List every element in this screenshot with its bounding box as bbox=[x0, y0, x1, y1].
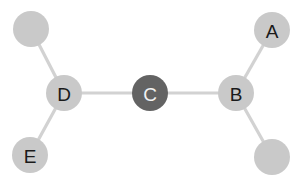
node-label: B bbox=[230, 84, 243, 105]
node-label: A bbox=[266, 21, 279, 42]
graph-node-e[interactable]: E bbox=[12, 137, 48, 173]
graph-node-d[interactable]: D bbox=[46, 75, 82, 111]
graph-svg: DECBA bbox=[0, 0, 300, 183]
graph-node-b[interactable]: B bbox=[218, 75, 254, 111]
node-label: E bbox=[24, 146, 37, 167]
node-label: D bbox=[57, 84, 71, 105]
graph-node-c[interactable]: C bbox=[132, 75, 168, 111]
graph-node-a[interactable]: A bbox=[254, 12, 290, 48]
node-circle[interactable] bbox=[254, 139, 290, 175]
graph-node-unlabeled[interactable] bbox=[254, 139, 290, 175]
node-label: C bbox=[143, 84, 157, 105]
graph-canvas: DECBA bbox=[0, 0, 300, 183]
node-circle[interactable] bbox=[13, 11, 49, 47]
nodes-layer: DECBA bbox=[12, 11, 290, 175]
graph-node-unlabeled[interactable] bbox=[13, 11, 49, 47]
